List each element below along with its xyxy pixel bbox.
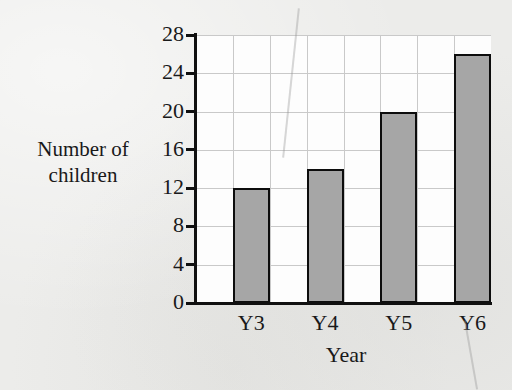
bar-y3 [233, 188, 270, 303]
x-axis-title: Year [296, 342, 396, 368]
y-tick-mark [186, 34, 196, 37]
y-axis-title-line-2: children [8, 162, 158, 188]
y-tick-mark [186, 148, 196, 151]
x-tick-label-y6: Y6 [438, 310, 508, 336]
x-tick-label-y4: Y4 [290, 310, 360, 336]
y-axis-title-line-1: Number of [8, 136, 158, 162]
x-tick-label-y5: Y5 [364, 310, 434, 336]
y-tick-label: 28 [144, 23, 184, 45]
gridline-vertical [270, 35, 271, 303]
bar-y4 [307, 169, 344, 303]
y-tick-mark [186, 225, 196, 228]
y-tick-mark [186, 187, 196, 190]
gridline-vertical [344, 35, 345, 303]
y-tick-label: 4 [144, 253, 184, 275]
y-tick-label: 0 [144, 291, 184, 313]
y-tick-label: 12 [144, 176, 184, 198]
y-tick-label: 20 [144, 100, 184, 122]
y-tick-label: 24 [144, 61, 184, 83]
y-tick-mark [186, 263, 196, 266]
y-axis-title: Number of children [8, 136, 158, 188]
x-axis-line [194, 302, 492, 305]
y-tick-mark [186, 302, 196, 305]
y-tick-mark [186, 72, 196, 75]
y-tick-label: 8 [144, 214, 184, 236]
y-tick-mark [186, 110, 196, 113]
bar-y6 [454, 54, 491, 303]
gridline-vertical [417, 35, 418, 303]
bar-y5 [380, 112, 417, 303]
y-axis-tick-labels: 0481216202428 [140, 0, 184, 390]
y-tick-label: 16 [144, 138, 184, 160]
bar-chart-figure: Number of children 0481216202428 Y3Y4Y5Y… [0, 0, 512, 390]
x-tick-label-y3: Y3 [216, 310, 286, 336]
plot-area [196, 35, 491, 303]
